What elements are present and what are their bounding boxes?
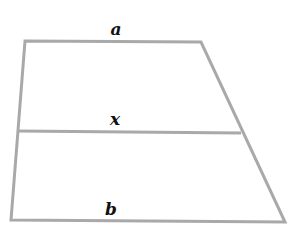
midline-x [17, 131, 241, 133]
label-midline-x: x [110, 111, 120, 128]
label-bottom-base-b: b [105, 201, 117, 218]
label-top-base-a: a [110, 21, 121, 38]
diagram-canvas: a x b [0, 0, 302, 234]
trapezoid-figure [0, 0, 302, 234]
